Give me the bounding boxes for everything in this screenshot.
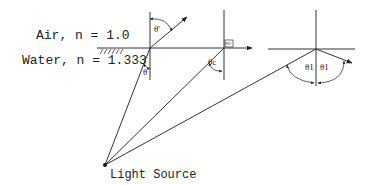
light-source-label: Light Source: [110, 169, 196, 181]
air-label: Air, n = 1.0: [36, 29, 130, 42]
light-source-dot: [103, 163, 107, 167]
theta1-left-label: θ1: [305, 63, 314, 72]
theta-prime-label: θ': [154, 25, 160, 34]
theta-c-label: θc: [208, 58, 216, 67]
right-angle-label: 90°: [225, 41, 232, 46]
water-label: Water, n = 1.333: [22, 54, 147, 67]
reflected-ray: [316, 49, 352, 63]
theta1-right-label: θ1: [320, 63, 329, 72]
theta-label: θ: [143, 68, 147, 77]
